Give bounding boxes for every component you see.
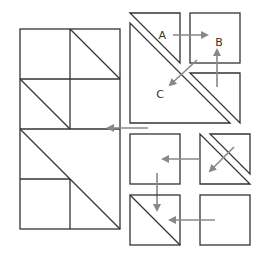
quilt-assembly-diagram: A B C [0, 0, 262, 265]
assembled-block [20, 29, 120, 229]
top-right-hst-diagonal [70, 29, 120, 79]
label-b: B [215, 36, 223, 49]
arrow-diagonal-down-left [210, 147, 234, 171]
label-a: A [158, 29, 166, 42]
middle-left-hst-diagonal [20, 79, 70, 129]
small-triangle-a [130, 13, 180, 63]
double-triangle-lower [200, 134, 250, 184]
label-c: C [156, 88, 164, 101]
exploded-bottom-row [130, 195, 250, 245]
small-triangle-lower-right [190, 73, 240, 123]
double-triangle-upper [210, 134, 250, 174]
exploded-middle-row [130, 134, 250, 210]
exploded-large-unit: A B C [108, 13, 240, 128]
